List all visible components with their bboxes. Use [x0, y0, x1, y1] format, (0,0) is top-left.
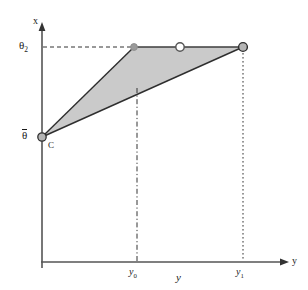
- tick-label-theta2: θ2: [19, 40, 28, 54]
- point-top-mid-marker: [176, 43, 184, 51]
- point-c-label: C: [48, 141, 54, 150]
- x-axis-arrowhead: [39, 22, 46, 31]
- theta-bar-symbol: θ: [22, 130, 27, 141]
- tick-label-theta-bar: θ: [22, 130, 27, 141]
- y-axis-arrowhead: [280, 259, 289, 266]
- y0-subscript: 0: [133, 272, 136, 279]
- point-c-marker: [38, 133, 46, 141]
- y-center-symbol: y: [176, 271, 181, 283]
- tick-label-y0: y0: [129, 267, 137, 280]
- y1-subscript: 1: [240, 272, 243, 279]
- figure-canvas: x y θ2 θ C y0 y1 y: [0, 0, 308, 290]
- x-axis-label: x: [33, 16, 38, 26]
- figure-svg: [0, 0, 308, 290]
- y-axis-center-caption: y: [176, 272, 181, 283]
- point-top-left-marker: [131, 44, 138, 51]
- tick-label-y1: y1: [236, 267, 244, 280]
- point-top-right-marker: [239, 43, 248, 52]
- y-axis-label: y: [292, 256, 297, 266]
- theta2-subscript: 2: [24, 45, 28, 54]
